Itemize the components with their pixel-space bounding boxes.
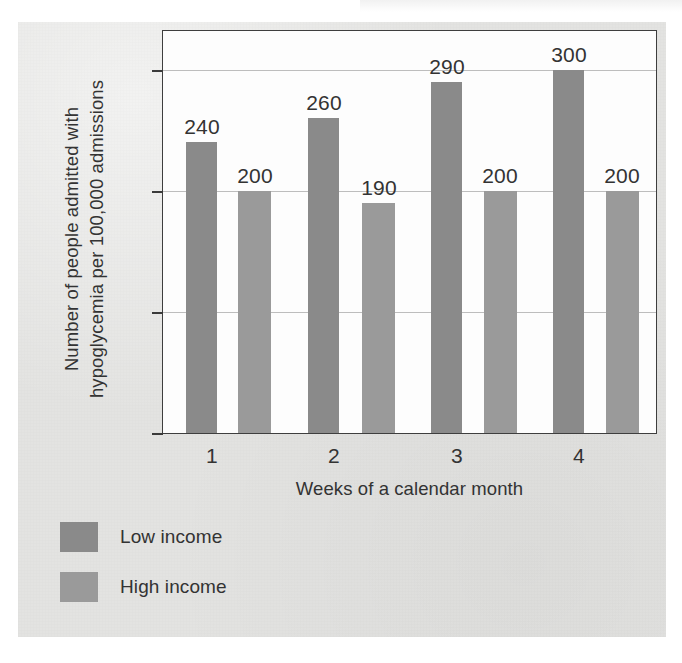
bar-week1-high-income[interactable]: [238, 191, 271, 433]
x-tick-label-3: 3: [437, 444, 477, 468]
legend-label-low-income: Low income: [120, 526, 222, 548]
bar-week4-high-income[interactable]: [606, 191, 639, 433]
legend: Low income High income: [60, 512, 227, 612]
x-axis-title: Weeks of a calendar month: [162, 478, 657, 500]
x-tick-label-2: 2: [314, 444, 354, 468]
y-tick-300: [152, 70, 163, 72]
plot-area: Number of people admitted with hypoglyce…: [163, 31, 656, 433]
data-label-week2-low: 260: [293, 91, 355, 115]
data-label-week3-high: 200: [469, 164, 531, 188]
bar-week1-low-income[interactable]: [186, 142, 217, 433]
data-label-week4-low: 300: [538, 43, 600, 67]
legend-label-high-income: High income: [120, 576, 227, 598]
data-label-week2-high: 190: [348, 176, 410, 200]
bar-chart-figure: Number of people admitted with hypoglyce…: [0, 0, 682, 663]
y-tick-200: [152, 191, 163, 193]
legend-swatch-low-income: [60, 522, 98, 552]
legend-swatch-high-income: [60, 572, 98, 602]
y-axis-title: Number of people admitted with hypoglyce…: [59, 37, 109, 441]
x-tick-label-4: 4: [559, 444, 599, 468]
legend-item-low-income[interactable]: Low income: [60, 512, 227, 562]
y-tick-0: [152, 433, 163, 435]
data-label-week4-high: 200: [591, 164, 653, 188]
y-tick-100: [152, 312, 163, 314]
bar-week2-low-income[interactable]: [308, 118, 339, 433]
bar-week3-high-income[interactable]: [484, 191, 517, 433]
plot-frame: Number of people admitted with hypoglyce…: [162, 30, 657, 434]
x-tick-label-1: 1: [192, 444, 232, 468]
y-axis-title-line1: Number of people admitted with: [59, 37, 84, 441]
bar-week2-high-income[interactable]: [362, 203, 395, 433]
legend-item-high-income[interactable]: High income: [60, 562, 227, 612]
data-label-week1-high: 200: [224, 164, 286, 188]
bar-week4-low-income[interactable]: [553, 70, 584, 433]
data-label-week3-low: 290: [416, 55, 478, 79]
bar-week3-low-income[interactable]: [431, 82, 462, 433]
y-axis-title-line2: hypoglycemia per 100,000 admissions: [84, 37, 109, 441]
data-label-week1-low: 240: [171, 115, 233, 139]
